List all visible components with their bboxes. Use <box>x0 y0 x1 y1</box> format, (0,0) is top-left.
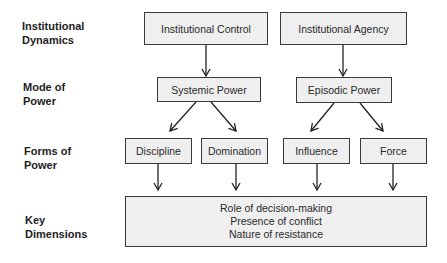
node-key-dimensions: Role of decision-making Presence of conf… <box>125 196 427 247</box>
node-label: Domination <box>208 145 261 157</box>
node-systemic-power: Systemic Power <box>157 77 261 102</box>
node-influence: Influence <box>283 138 350 164</box>
node-episodic-power: Episodic Power <box>296 77 392 103</box>
arrow-systemic-to-discipline <box>170 102 196 131</box>
arrow-episodic-to-force <box>360 103 383 131</box>
arrow-systemic-to-domination <box>211 102 236 131</box>
key-dimension-item: Presence of conflict <box>230 215 322 228</box>
node-institutional-control: Institutional Control <box>144 12 268 45</box>
node-discipline: Discipline <box>125 138 192 164</box>
node-label: Institutional Agency <box>298 23 388 35</box>
node-label: Systemic Power <box>171 84 246 96</box>
node-label: Discipline <box>136 145 181 157</box>
key-dimension-item: Role of decision-making <box>220 202 332 215</box>
node-force: Force <box>360 138 427 164</box>
node-label: Influence <box>295 145 338 157</box>
key-dimension-item: Nature of resistance <box>229 228 323 241</box>
node-institutional-agency: Institutional Agency <box>280 12 407 45</box>
node-label: Force <box>380 145 407 157</box>
node-domination: Domination <box>201 138 268 164</box>
node-label: Episodic Power <box>308 84 380 96</box>
arrow-episodic-to-influence <box>311 103 334 131</box>
node-label: Institutional Control <box>161 23 251 35</box>
